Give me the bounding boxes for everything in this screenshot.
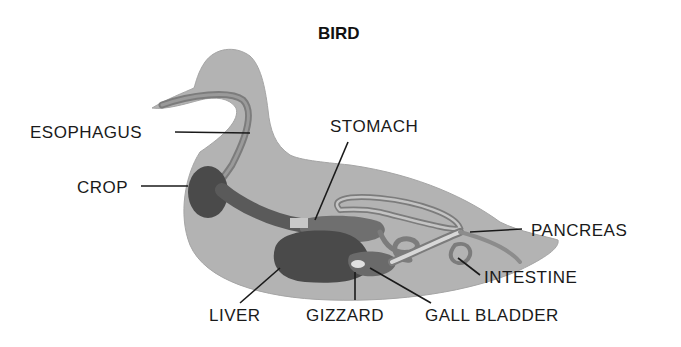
diagram-title: BIRD [318,25,360,42]
label-stomach: STOMACH [330,118,418,135]
label-crop: CROP [77,179,128,196]
label-liver: LIVER [209,307,261,324]
bird-digestive-diagram [0,0,681,347]
gall-bladder-organ [351,260,365,268]
label-esophagus: ESOPHAGUS [30,124,142,141]
label-pancreas: PANCREAS [531,222,627,239]
esophagus-leader [175,132,250,133]
label-gall-bladder: GALL BLADDER [425,307,559,324]
label-gizzard: GIZZARD [306,307,384,324]
label-intestine: INTESTINE [484,269,577,286]
